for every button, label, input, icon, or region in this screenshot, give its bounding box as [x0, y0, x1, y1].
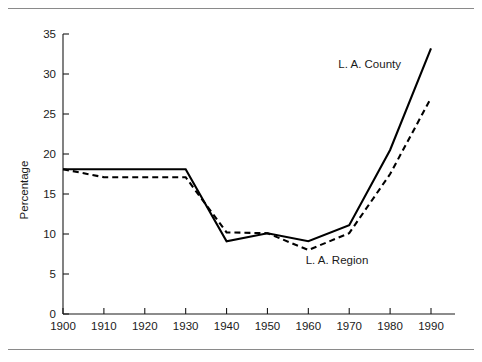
series-label-la-county: L. A. County — [338, 58, 401, 70]
y-tick-label: 35 — [43, 28, 56, 40]
x-tick-label: 1940 — [214, 320, 240, 332]
x-tick-label: 1980 — [377, 320, 403, 332]
series-label-la-region: L. A. Region — [306, 254, 369, 266]
series-annotations: L. A. County L. A. Region — [306, 58, 402, 267]
data-series-group — [63, 48, 431, 250]
x-tick-label: 1970 — [336, 320, 362, 332]
x-tick-label: 1960 — [296, 320, 322, 332]
y-axis-ticks — [63, 34, 69, 314]
y-tick-label: 25 — [43, 108, 56, 120]
y-tick-label: 10 — [43, 228, 56, 240]
x-tick-label: 1930 — [173, 320, 199, 332]
y-tick-label: 5 — [50, 268, 56, 280]
figure-container: 05101520253035 1900191019201930194019501… — [0, 0, 482, 362]
series-line-la-region — [63, 98, 431, 250]
x-axis: 1900191019201930194019501960197019801990 — [50, 308, 455, 332]
x-tick-label: 1910 — [91, 320, 117, 332]
chart-plot-area: 05101520253035 1900191019201930194019501… — [0, 0, 482, 362]
y-tick-label: 30 — [43, 68, 56, 80]
x-axis-tick-labels: 1900191019201930194019501960197019801990 — [50, 320, 444, 332]
x-tick-label: 1990 — [418, 320, 444, 332]
x-tick-label: 1920 — [132, 320, 158, 332]
line-chart: 05101520253035 1900191019201930194019501… — [0, 0, 482, 362]
series-line-la-county — [63, 48, 431, 241]
x-tick-label: 1900 — [50, 320, 76, 332]
y-axis-title: Percentage — [18, 161, 30, 220]
y-tick-label: 0 — [50, 308, 56, 320]
y-tick-label: 20 — [43, 148, 56, 160]
y-axis: 05101520253035 — [43, 28, 69, 320]
x-axis-ticks — [63, 308, 431, 314]
x-tick-label: 1950 — [255, 320, 281, 332]
y-axis-tick-labels: 05101520253035 — [43, 28, 56, 320]
y-tick-label: 15 — [43, 188, 56, 200]
